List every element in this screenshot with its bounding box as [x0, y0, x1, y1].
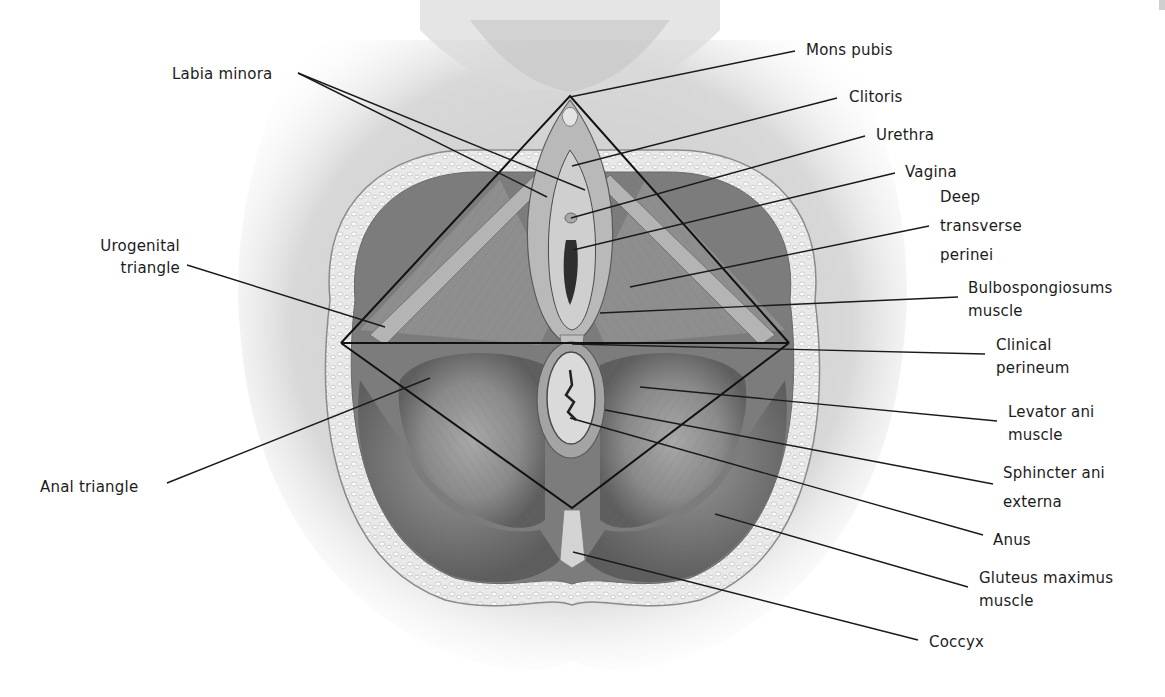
label-urogenital-triangle-line2: triangle: [80, 257, 180, 279]
label-anal-triangle: Anal triangle: [40, 476, 138, 498]
label-vagina: Vagina: [905, 161, 957, 183]
label-coccyx: Coccyx: [929, 631, 984, 653]
label-sphincter-ani-line1: Sphincter ani: [1003, 462, 1105, 484]
label-deep-transverse-line3: perinei: [940, 244, 993, 266]
label-clitoris: Clitoris: [849, 86, 903, 108]
label-deep-transverse-line1: Deep: [940, 186, 980, 208]
label-clinical-perineum-line1: Clinical: [996, 334, 1052, 356]
label-sphincter-ani-line2: externa: [1003, 491, 1062, 513]
label-urethra: Urethra: [876, 124, 934, 146]
label-clinical-perineum-line2: perineum: [996, 357, 1070, 379]
label-gluteus-line2: muscle: [979, 590, 1034, 612]
label-gluteus-line1: Gluteus maximus: [979, 567, 1113, 589]
coccyx-shape: [560, 510, 585, 568]
label-bulbospongiosus-line2: muscle: [968, 300, 1023, 322]
label-deep-transverse-line2: transverse: [940, 215, 1022, 237]
label-levator-ani-line1: Levator ani: [1008, 401, 1094, 423]
label-anus: Anus: [993, 529, 1031, 551]
label-mons-pubis: Mons pubis: [806, 39, 893, 61]
label-bulbospongiosus-line1: Bulbospongiosums: [968, 277, 1113, 299]
anal-sphincter: [537, 342, 605, 458]
corner-mark: [1159, 0, 1165, 10]
anatomy-figure: Labia minora Urogenital triangle Anal tr…: [0, 0, 1165, 697]
label-levator-ani-line2: muscle: [1008, 424, 1063, 446]
label-urogenital-triangle-line1: Urogenital: [80, 235, 180, 257]
label-labia-minora: Labia minora: [172, 63, 272, 85]
